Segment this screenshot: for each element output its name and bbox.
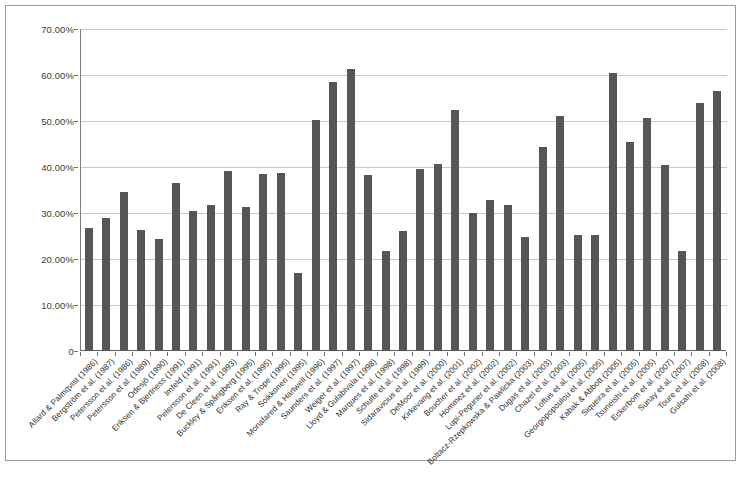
x-tick-mark: [604, 352, 605, 356]
bar: [696, 103, 704, 351]
x-tick-mark: [726, 352, 727, 356]
x-tick-mark: [656, 352, 657, 356]
x-tick-mark: [482, 352, 483, 356]
bar: [224, 171, 232, 351]
bar: [207, 205, 215, 351]
bar: [469, 213, 477, 351]
bar: [451, 110, 459, 351]
x-tick-mark: [464, 352, 465, 356]
x-tick-mark: [394, 352, 395, 356]
bar: [242, 207, 250, 351]
y-tick-mark: [74, 121, 78, 122]
bar: [416, 169, 424, 351]
x-tick-mark: [499, 352, 500, 356]
bar: [521, 237, 529, 351]
x-tick-mark: [202, 352, 203, 356]
bar: [312, 120, 320, 351]
x-tick-mark: [324, 352, 325, 356]
bar: [713, 91, 721, 351]
x-tick-mark: [586, 352, 587, 356]
chart-figure: 70.00%60.00%50.00%40.00%30.00%20.00%10.0…: [5, 5, 736, 461]
bar: [591, 235, 599, 351]
bar: [556, 116, 564, 351]
x-tick-mark: [97, 352, 98, 356]
bar: [678, 251, 686, 351]
x-tick-mark: [551, 352, 552, 356]
bar: [155, 239, 163, 351]
y-tick-label: 50.00%: [4, 116, 74, 127]
y-tick-mark: [74, 351, 78, 352]
y-tick-label: 40.00%: [4, 162, 74, 173]
y-tick-label: 30.00%: [4, 208, 74, 219]
x-tick-mark: [220, 352, 221, 356]
bar: [661, 165, 669, 351]
x-tick-mark: [307, 352, 308, 356]
x-tick-mark: [237, 352, 238, 356]
x-tick-mark: [342, 352, 343, 356]
bar: [504, 205, 512, 351]
y-tick-mark: [74, 29, 78, 30]
y-tick-mark: [74, 259, 78, 260]
x-tick-mark: [167, 352, 168, 356]
x-axis-labels: Allard & Palmqvist (1986)Bergström et al…: [80, 357, 740, 461]
bar: [539, 147, 547, 351]
bar: [574, 235, 582, 351]
x-tick-mark: [272, 352, 273, 356]
x-tick-mark: [429, 352, 430, 356]
x-tick-mark: [639, 352, 640, 356]
y-tick-mark: [74, 213, 78, 214]
bar: [137, 230, 145, 351]
x-tick-mark: [709, 352, 710, 356]
bar: [329, 82, 337, 351]
x-tick-mark: [621, 352, 622, 356]
y-tick-label: 70.00%: [4, 24, 74, 35]
x-tick-mark: [80, 352, 81, 356]
bar: [189, 211, 197, 351]
bar: [347, 69, 355, 351]
y-tick-mark: [74, 167, 78, 168]
bar: [364, 175, 372, 351]
bar: [434, 164, 442, 351]
y-axis-labels: 70.00%60.00%50.00%40.00%30.00%20.00%10.0…: [6, 29, 74, 351]
bar: [399, 231, 407, 351]
x-tick-mark: [185, 352, 186, 356]
x-tick-mark: [132, 352, 133, 356]
x-tick-mark: [290, 352, 291, 356]
y-tick-label: 20.00%: [4, 254, 74, 265]
bar: [172, 183, 180, 351]
bar: [382, 251, 390, 351]
y-tick-label: 0: [4, 346, 74, 357]
x-tick-mark: [534, 352, 535, 356]
bar: [277, 173, 285, 351]
y-tick-label: 10.00%: [4, 300, 74, 311]
x-tick-mark: [255, 352, 256, 356]
bar-series: [80, 29, 726, 351]
bar: [120, 192, 128, 351]
y-tick-mark: [74, 75, 78, 76]
y-tick-mark: [74, 305, 78, 306]
bar: [486, 200, 494, 351]
y-tick-label: 60.00%: [4, 70, 74, 81]
x-tick-mark: [359, 352, 360, 356]
bar: [609, 73, 617, 351]
x-tick-mark: [691, 352, 692, 356]
bar: [259, 174, 267, 351]
x-tick-mark: [516, 352, 517, 356]
x-tick-mark: [412, 352, 413, 356]
x-tick-mark: [447, 352, 448, 356]
x-tick-mark: [150, 352, 151, 356]
bar: [85, 228, 93, 351]
x-tick-mark: [569, 352, 570, 356]
bar: [626, 142, 634, 351]
bar: [102, 218, 110, 351]
x-tick-mark: [377, 352, 378, 356]
x-tick-mark: [674, 352, 675, 356]
bar: [294, 273, 302, 351]
bar: [643, 118, 651, 351]
x-tick-mark: [115, 352, 116, 356]
